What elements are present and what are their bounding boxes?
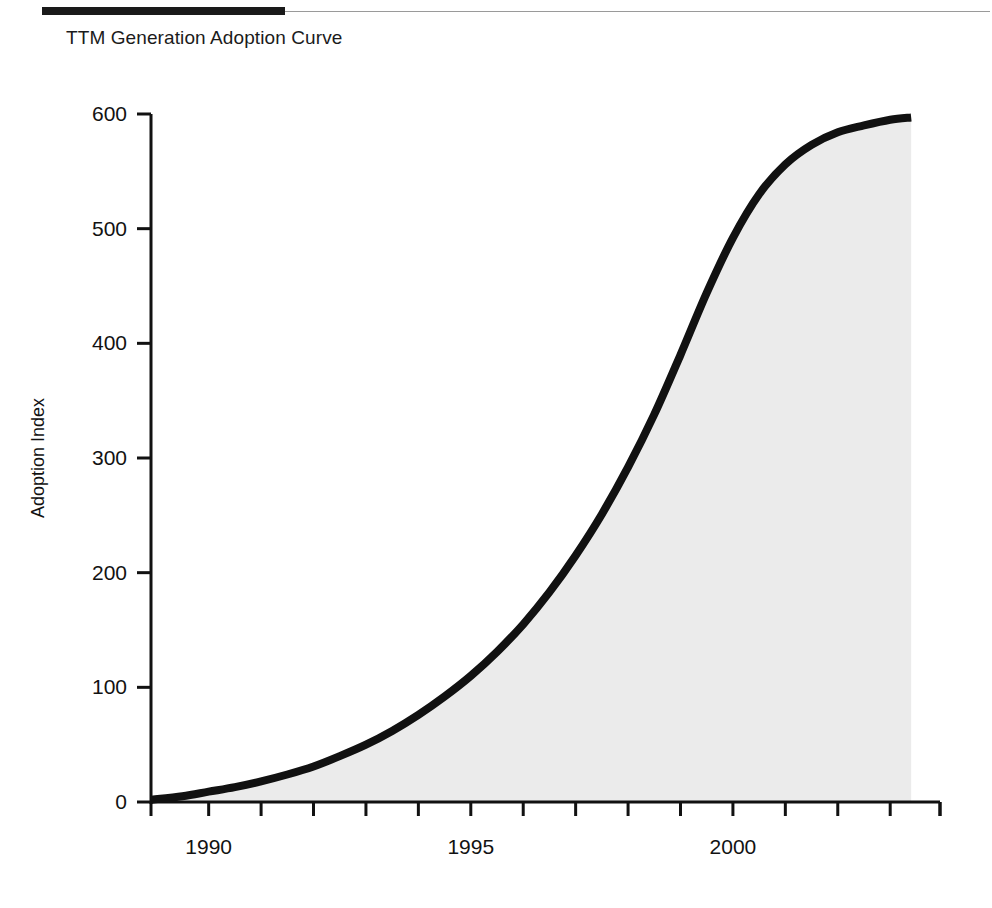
chart-area: 0100200300400500600199019952000Adoption … [0, 0, 992, 908]
adoption-curve-chart: 0100200300400500600199019952000Adoption … [0, 0, 992, 908]
y-tick-label: 200 [92, 561, 127, 584]
y-tick-label: 600 [92, 102, 127, 125]
y-tick-label: 0 [115, 790, 127, 813]
y-tick-label: 100 [92, 675, 127, 698]
y-tick-label: 300 [92, 446, 127, 469]
y-axis-title: Adoption Index [28, 398, 48, 518]
y-tick-label: 500 [92, 217, 127, 240]
x-tick-label: 2000 [710, 835, 757, 858]
area-fill [151, 117, 911, 802]
chart-page: TTM Generation Adoption Curve 0100200300… [0, 0, 992, 908]
y-tick-label: 400 [92, 331, 127, 354]
x-tick-label: 1995 [447, 835, 494, 858]
x-tick-label: 1990 [185, 835, 232, 858]
